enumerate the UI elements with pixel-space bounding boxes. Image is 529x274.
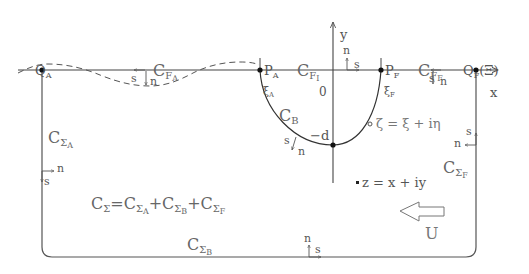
s-label-csf: s (466, 126, 472, 137)
point-depth (330, 142, 335, 147)
z-definition: z = x + iy (362, 176, 426, 189)
x-axis-label: x (490, 86, 497, 99)
label-pa: PA (264, 64, 279, 80)
label-csa: CΣA (48, 130, 73, 151)
s-label-cfa: s (131, 73, 137, 84)
n-label-cb: n (298, 146, 305, 157)
y-axis-label: y (340, 28, 347, 41)
point-pf (378, 67, 383, 72)
s-label-cfi: s (354, 59, 360, 70)
n-arrow-cb (292, 137, 296, 150)
s-label-csb: s (315, 244, 321, 255)
label-xi-a: ξA (263, 86, 274, 99)
n-label-cfi: n (343, 45, 350, 56)
label-csf: CΣF (443, 160, 468, 181)
label-qf: QF(Ξ) (463, 64, 499, 80)
n-label-cfa: n (150, 76, 157, 87)
label-qa: QA (35, 64, 51, 80)
s-label-cff: s (429, 73, 435, 84)
n-label-cff: n (440, 76, 447, 87)
s-label-csa: s (44, 176, 50, 187)
free-surface-wave (18, 62, 259, 86)
control-surface-boundary (42, 70, 476, 257)
label-depth: −d (310, 129, 329, 142)
n-label-csa: n (57, 163, 64, 174)
flow-arrow-icon (400, 202, 444, 221)
n-label-csf: n (454, 138, 461, 149)
diagram-canvas (0, 0, 529, 274)
flow-velocity-label: U (425, 226, 438, 242)
zeta-definition: ζ = ξ + iη (376, 117, 440, 130)
s-label-cb: s (284, 135, 290, 146)
label-pf: PF (385, 64, 399, 80)
origin-label: 0 (319, 86, 327, 98)
control-surface-equation: CΣ=CΣA+CΣB+CΣF (91, 196, 225, 217)
label-csb: CΣB (187, 237, 212, 258)
label-cfi: CFI (297, 63, 319, 84)
point-pa (257, 67, 262, 72)
label-cb: CB (279, 108, 299, 126)
label-xi-f: ξF (384, 86, 395, 99)
point-z (356, 181, 359, 184)
n-label-csb: n (304, 233, 311, 244)
point-zeta (368, 122, 372, 126)
